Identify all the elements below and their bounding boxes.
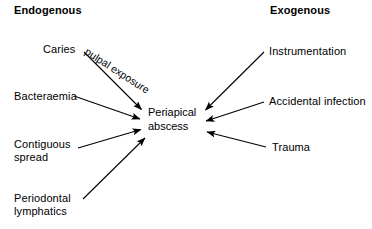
center-node-line2: abscess xyxy=(148,120,188,132)
center-node-line1: Periapical xyxy=(148,106,196,118)
diagram-canvas: Endogenous Exogenous Caries Bacteraemia … xyxy=(0,0,372,229)
edge-accidental-infection xyxy=(206,102,264,121)
edge-instrumentation xyxy=(206,52,265,110)
center-node-periapical-abscess: Periapicalabscess xyxy=(148,106,196,133)
source-label-instrumentation: Instrumentation xyxy=(269,45,346,58)
edge-trauma xyxy=(207,132,266,147)
source-label-contiguous-spread: Contiguousspread xyxy=(14,138,71,163)
edge-periodontal-lymphatics xyxy=(83,138,145,199)
source-label-periodontal-lymphatics-line2: lymphatics xyxy=(14,205,67,217)
source-label-periodontal-lymphatics: Periodontallymphatics xyxy=(14,192,71,217)
edge-contiguous-spread xyxy=(78,130,141,149)
source-label-accidental-infection: Accidental infection xyxy=(269,95,366,108)
source-label-bacteraemia: Bacteraemia xyxy=(14,90,77,103)
source-label-contiguous-spread-line1: Contiguous xyxy=(14,138,71,150)
heading-endogenous: Endogenous xyxy=(14,4,82,17)
source-label-periodontal-lymphatics-line1: Periodontal xyxy=(14,192,71,204)
source-label-trauma: Trauma xyxy=(272,141,310,154)
source-label-caries: Caries xyxy=(43,43,75,56)
edge-bacteraemia xyxy=(74,96,140,119)
heading-exogenous: Exogenous xyxy=(270,4,330,17)
source-label-contiguous-spread-line2: spread xyxy=(14,151,48,163)
